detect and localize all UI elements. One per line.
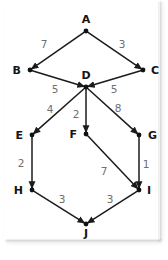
graph-node-e (30, 133, 35, 138)
node-label-e: E (15, 129, 23, 142)
edges-layer (31, 32, 141, 223)
edge-weight-d-g: 8 (115, 102, 122, 114)
edge-weight-e-h: 2 (18, 157, 25, 169)
graph-node-d (84, 85, 89, 90)
graph-node-a (84, 29, 89, 34)
diagram-canvas: ABCDEFGHIJ 735542827133 (0, 0, 168, 260)
graph-node-h (30, 188, 35, 193)
edge-weight-f-i: 7 (101, 165, 108, 177)
node-label-a: A (82, 13, 91, 26)
edge-weight-b-d: 5 (52, 83, 59, 95)
edge-weight-d-e: 4 (47, 103, 54, 115)
node-label-i: I (147, 184, 151, 197)
edge-weight-c-d: 5 (111, 83, 118, 95)
edge-weight-d-f: 2 (73, 108, 80, 120)
node-label-d: D (81, 69, 90, 82)
edge-weight-a-c: 3 (119, 38, 126, 50)
node-label-h: H (14, 184, 23, 197)
graph-node-j (84, 222, 89, 227)
node-label-g: G (148, 129, 157, 142)
node-label-c: C (151, 64, 159, 77)
edge-weight-g-i: 1 (143, 158, 150, 170)
graph-edge-a-b (32, 32, 85, 69)
edge-weight-h-j: 3 (59, 193, 66, 205)
graph-node-g (137, 133, 142, 138)
graph-edge-a-c (87, 32, 141, 69)
graph-node-f (84, 132, 89, 137)
graph-edge-f-i (87, 135, 138, 188)
edge-weight-a-b: 7 (41, 38, 48, 50)
graph-node-c (141, 68, 146, 73)
node-label-b: B (13, 64, 21, 77)
graph-node-b (28, 68, 33, 73)
graph-node-i (137, 188, 142, 193)
edge-weight-i-j: 3 (107, 193, 114, 205)
node-label-f: F (69, 128, 77, 141)
weighted-directed-graph: ABCDEFGHIJ 735542827133 (0, 0, 168, 260)
node-label-j: J (83, 227, 88, 240)
